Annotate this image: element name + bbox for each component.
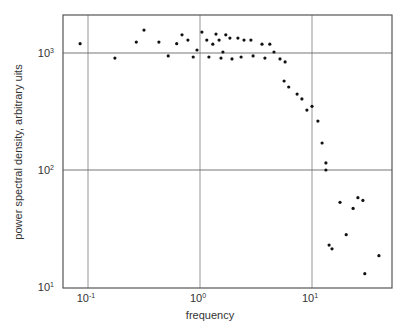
x-tick-label: 100	[190, 292, 206, 304]
data-point	[195, 48, 198, 51]
y-tick-label: 102	[38, 164, 54, 176]
data-point	[192, 55, 195, 58]
data-point	[219, 57, 222, 60]
data-point	[200, 30, 203, 33]
y-tick-label: 101	[38, 281, 54, 293]
data-point	[221, 50, 224, 53]
y-tick-label: 103	[38, 47, 54, 59]
data-point	[249, 39, 252, 42]
data-point	[352, 207, 355, 210]
x-tick-labels: 10-1100101	[77, 292, 318, 304]
data-point	[157, 41, 160, 44]
data-point	[310, 105, 313, 108]
data-point	[268, 43, 271, 46]
x-tick-label: 10-1	[77, 292, 96, 304]
grid-lines	[63, 15, 392, 288]
data-point	[278, 57, 281, 60]
data-point	[345, 233, 348, 236]
data-point	[211, 43, 214, 46]
data-point	[356, 196, 359, 199]
data-point	[260, 43, 263, 46]
data-point	[252, 54, 255, 57]
data-point	[287, 85, 290, 88]
data-point	[186, 39, 189, 42]
data-point	[242, 39, 245, 42]
data-point	[328, 244, 331, 247]
data-point	[228, 37, 231, 40]
data-point	[338, 201, 341, 204]
data-point	[175, 42, 178, 45]
x-tick-label: 101	[302, 292, 318, 304]
data-point	[214, 33, 217, 36]
data-point	[218, 39, 221, 42]
x-axis-label: frequency	[186, 309, 235, 321]
psd-chart: 10-1100101 101102103 frequency power spe…	[0, 0, 408, 332]
data-point	[283, 79, 286, 82]
data-point	[167, 54, 170, 57]
data-point	[324, 168, 327, 171]
data-point	[240, 55, 243, 58]
data-point	[205, 39, 208, 42]
data-point	[300, 97, 303, 100]
y-tick-labels: 101102103	[38, 47, 54, 293]
data-point	[363, 272, 366, 275]
data-point	[330, 247, 333, 250]
data-point	[113, 57, 116, 60]
data-point	[79, 42, 82, 45]
data-point	[324, 161, 327, 164]
data-point	[321, 141, 324, 144]
data-point	[180, 33, 183, 36]
data-point	[316, 120, 319, 123]
data-point	[377, 254, 380, 257]
data-point	[142, 29, 145, 32]
data-point	[236, 37, 239, 40]
y-axis-label: power spectral density, arbitrary uits	[12, 64, 24, 240]
data-point	[230, 57, 233, 60]
data-point	[272, 50, 275, 53]
plot-frame	[63, 15, 392, 288]
data-point	[296, 93, 299, 96]
data-point	[135, 41, 138, 44]
data-points	[79, 29, 381, 276]
data-point	[224, 33, 227, 36]
data-point	[207, 55, 210, 58]
data-point	[305, 109, 308, 112]
data-point	[263, 57, 266, 60]
data-point	[284, 60, 287, 63]
data-point	[361, 199, 364, 202]
